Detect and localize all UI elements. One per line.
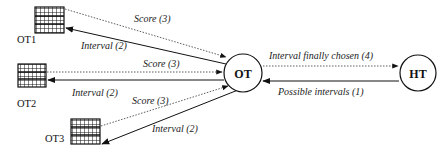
ot3-label: OT3	[45, 133, 64, 144]
ot1-score-label: Score (3)	[134, 13, 171, 25]
ht-node: HT	[400, 55, 436, 91]
ot3-interval-arrow	[102, 90, 238, 144]
final-interval-label: Interval finally chosen (4)	[268, 50, 374, 62]
ot2-score-label: Score (3)	[143, 58, 180, 70]
possible-intervals-label: Possible intervals (1)	[277, 86, 364, 98]
ot3-score-label: Score (3)	[132, 95, 169, 107]
ot2-label: OT2	[17, 98, 36, 109]
ot3-interval-label: Interval (2)	[151, 123, 198, 135]
ot-node: OT	[224, 54, 262, 92]
ot2-interval-label: Interval (2)	[71, 87, 118, 99]
ot3-table-icon	[71, 119, 100, 144]
ot-node-label: OT	[234, 67, 251, 81]
diagram-canvas: OT1 OT2 OT3 Score (3) Interval (2) Score…	[0, 0, 447, 155]
ot2-table-icon	[18, 64, 46, 87]
ht-node-label: HT	[409, 67, 426, 81]
ot1-interval-label: Interval (2)	[80, 40, 127, 52]
ot3-score-arrow	[101, 86, 228, 126]
ot1-label: OT1	[17, 34, 36, 45]
ot1-table-icon	[35, 7, 64, 33]
